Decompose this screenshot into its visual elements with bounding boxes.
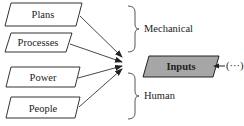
source-label-processes: Processes xyxy=(18,37,59,48)
diagram-canvas: Plans Processes Power People Mechanical … xyxy=(0,0,244,126)
brace-human-icon xyxy=(128,73,139,119)
source-box-people: People xyxy=(6,97,80,118)
brace-mechanical-icon xyxy=(128,6,139,52)
target-box-inputs: Inputs xyxy=(143,56,219,77)
source-box-plans: Plans xyxy=(5,3,82,26)
group-label-mechanical: Mechanical xyxy=(144,23,193,34)
arrow-people xyxy=(79,69,122,107)
source-label-people: People xyxy=(29,103,58,114)
source-box-power: Power xyxy=(6,67,80,87)
source-label-power: Power xyxy=(30,72,57,83)
arrow-power xyxy=(78,66,122,78)
group-label-human: Human xyxy=(144,90,176,101)
source-label-plans: Plans xyxy=(32,9,55,20)
continuation-label: (···) xyxy=(226,60,244,72)
arrow-processes xyxy=(70,44,122,62)
arrow-plans xyxy=(80,16,122,57)
target-label-inputs: Inputs xyxy=(166,61,195,72)
arrows xyxy=(70,16,122,107)
source-box-processes: Processes xyxy=(5,33,72,52)
